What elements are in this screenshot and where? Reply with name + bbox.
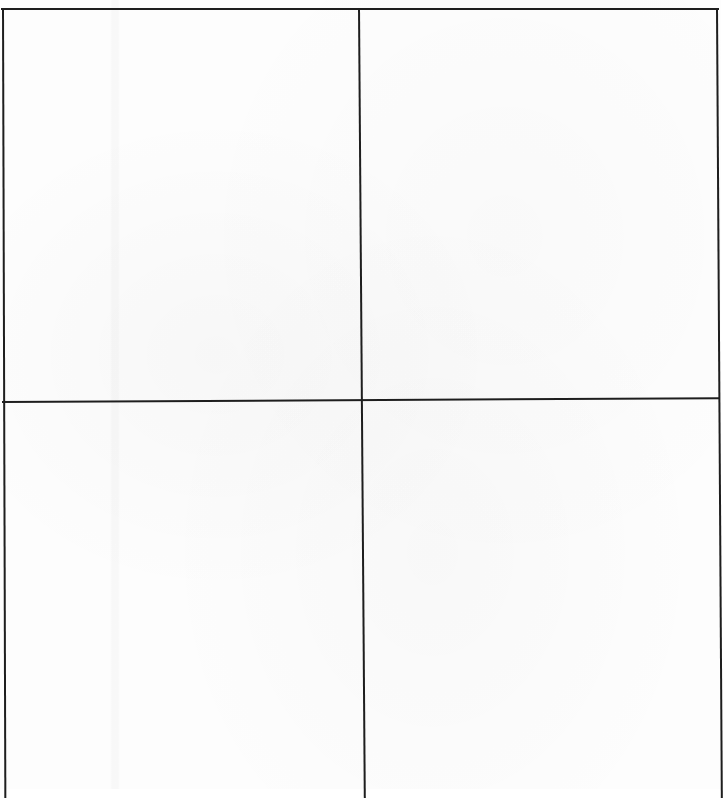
grid-cell-bottom-left <box>4 403 360 789</box>
grid-cell-bottom-right <box>362 401 721 789</box>
grid-cell-top-right <box>360 10 716 399</box>
grid-cell-top-left <box>4 10 358 401</box>
